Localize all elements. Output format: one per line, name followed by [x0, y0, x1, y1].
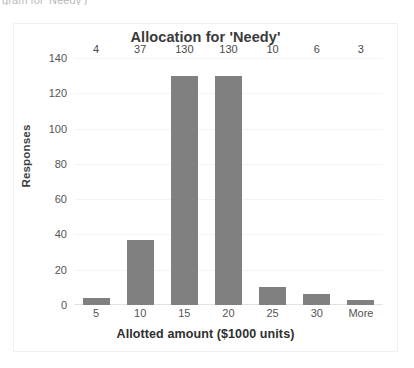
bar[interactable]: 6: [303, 294, 330, 305]
x-axis-tick-label: More: [339, 307, 383, 319]
bar[interactable]: 130: [215, 76, 242, 305]
bar-series: 4371301301063: [74, 58, 383, 305]
plot-area: 020406080100120140 4371301301063: [74, 58, 383, 305]
x-axis-tick-label: 15: [162, 307, 206, 319]
y-axis-tick-label: 120: [49, 87, 67, 99]
bar-value-label: 10: [251, 43, 295, 55]
clipped-caption-text: gram for 'Needy'): [2, 0, 87, 5]
bar-slot: 3: [339, 58, 383, 305]
bar-value-label: 130: [162, 43, 206, 55]
bar-value-label: 130: [206, 43, 250, 55]
y-axis-tick-label: 140: [49, 52, 67, 64]
chart-container: Allocation for 'Needy' Responses 0204060…: [13, 23, 398, 352]
x-axis-tick-label: 10: [118, 307, 162, 319]
y-axis-tick-label: 20: [55, 264, 67, 276]
x-axis-tick-label: 20: [206, 307, 250, 319]
bar[interactable]: 37: [127, 240, 154, 305]
y-axis-tick-label: 0: [61, 299, 67, 311]
bar-slot: 130: [206, 58, 250, 305]
bar-slot: 130: [162, 58, 206, 305]
x-axis-tick-label: 30: [295, 307, 339, 319]
y-axis-title: Responses: [20, 96, 32, 216]
y-axis-tick-label: 80: [55, 158, 67, 170]
y-axis-tick-label: 100: [49, 123, 67, 135]
bar-value-label: 6: [295, 43, 339, 55]
bar-slot: 6: [295, 58, 339, 305]
x-axis-title: Allotted amount ($1000 units): [14, 327, 397, 341]
bar[interactable]: 10: [259, 287, 286, 305]
bar-value-label: 37: [118, 43, 162, 55]
bar-slot: 10: [251, 58, 295, 305]
bar[interactable]: 4: [83, 298, 110, 305]
x-axis-tick-labels: 51015202530More: [74, 307, 383, 319]
x-axis-tick-label: 25: [251, 307, 295, 319]
bar-slot: 37: [118, 58, 162, 305]
bar-slot: 4: [74, 58, 118, 305]
y-axis-tick-label: 60: [55, 193, 67, 205]
bar[interactable]: 130: [171, 76, 198, 305]
y-axis-tick-label: 40: [55, 228, 67, 240]
bar-value-label: 3: [339, 43, 383, 55]
bar-value-label: 4: [74, 43, 118, 55]
bar[interactable]: 3: [347, 300, 374, 305]
x-axis-tick-label: 5: [74, 307, 118, 319]
